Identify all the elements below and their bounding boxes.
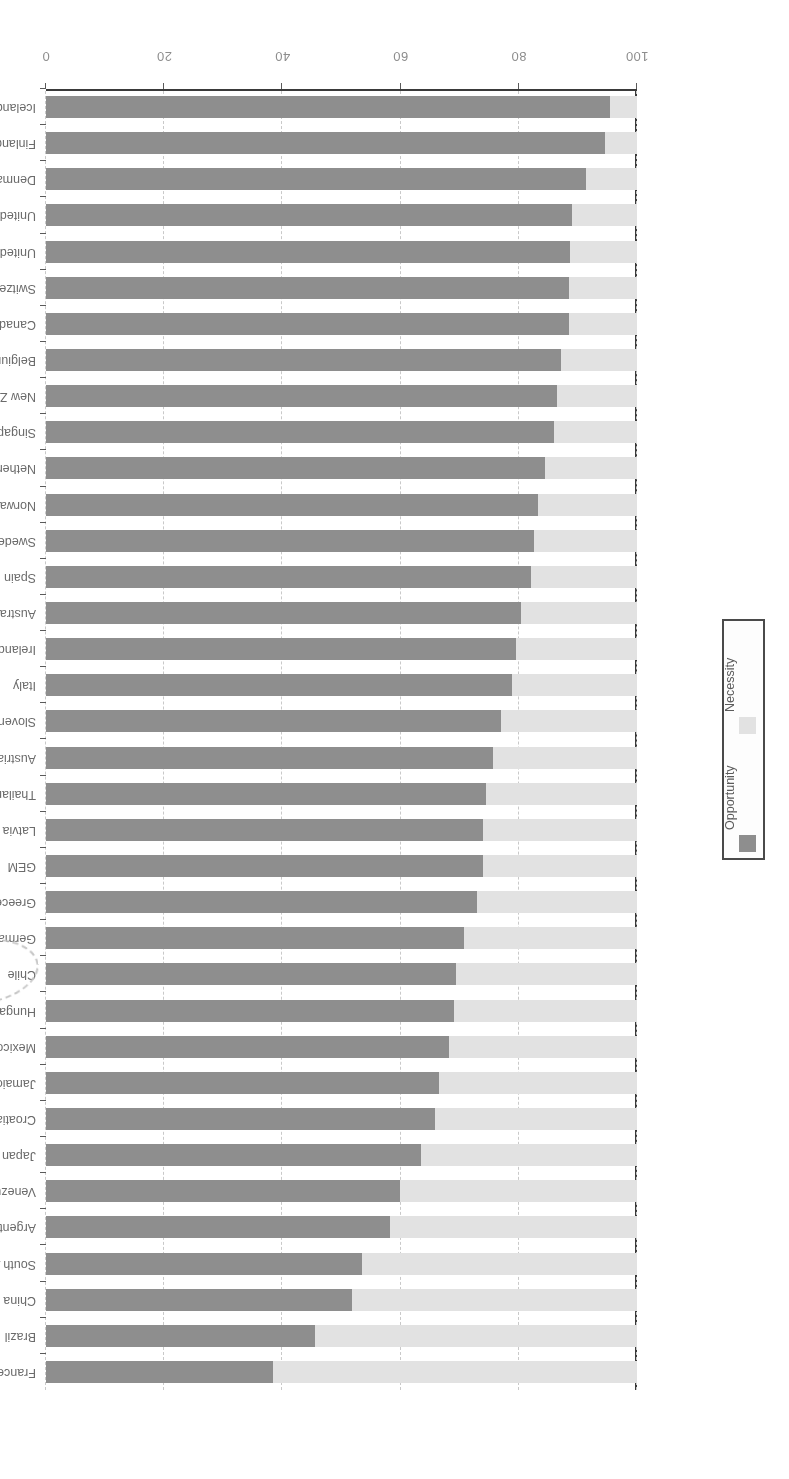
bar-segment-opportunity	[46, 205, 572, 227]
bar-segment-necessity	[605, 132, 637, 154]
bar-segment-necessity	[454, 1000, 637, 1022]
bar-row	[46, 349, 637, 371]
x-axis-line	[46, 89, 637, 91]
bar-row	[46, 1000, 637, 1022]
y-tickmark	[40, 847, 46, 848]
y-tickmark	[40, 702, 46, 703]
bar-segment-necessity	[352, 1289, 637, 1311]
category-label: Finland	[0, 138, 36, 151]
bar-row	[46, 457, 637, 479]
y-tickmark	[40, 1172, 46, 1173]
bar-segment-necessity	[586, 168, 637, 190]
category-label: Switzerland	[0, 282, 36, 295]
category-label: Brazil	[5, 1330, 36, 1343]
bar-segment-opportunity	[46, 349, 561, 371]
y-tickmark	[40, 1353, 46, 1354]
bar-segment-opportunity	[46, 674, 512, 696]
bar-segment-necessity	[486, 783, 637, 805]
bar-segment-necessity	[362, 1253, 637, 1275]
bar-segment-necessity	[435, 1108, 637, 1130]
x-tickmark-80	[518, 83, 519, 89]
y-tickmark	[40, 991, 46, 992]
bar-row	[46, 674, 637, 696]
y-tickmark	[40, 1100, 46, 1101]
y-tickmark	[40, 305, 46, 306]
category-label: Greece	[0, 897, 36, 910]
category-label: United Kingdom	[0, 210, 36, 223]
bar-segment-opportunity	[46, 96, 610, 118]
bar-row	[46, 638, 637, 660]
bar-segment-necessity	[439, 1072, 637, 1094]
y-tickmark	[40, 269, 46, 270]
bar-segment-opportunity	[46, 566, 531, 588]
category-label: Iceland	[0, 102, 36, 115]
bar-segment-opportunity	[46, 457, 545, 479]
category-label: Thailand	[0, 788, 36, 801]
bar-row	[46, 168, 637, 190]
bar-segment-opportunity	[46, 1180, 400, 1202]
bar-segment-necessity	[572, 205, 637, 227]
category-label: Mexico	[0, 1041, 36, 1054]
bar-segment-opportunity	[46, 1216, 390, 1238]
x-tick-label: 100	[625, 49, 648, 64]
category-label: GEM	[8, 861, 36, 874]
bar-segment-opportunity	[46, 1361, 273, 1383]
bar-segment-necessity	[493, 747, 637, 769]
bar-row	[46, 530, 637, 552]
bar-segment-necessity	[400, 1180, 637, 1202]
bar-segment-necessity	[610, 96, 637, 118]
y-tickmark	[40, 1244, 46, 1245]
bar-segment-opportunity	[46, 241, 570, 263]
bar-segment-necessity	[483, 855, 637, 877]
bar-row	[46, 1325, 637, 1347]
y-tickmark	[40, 919, 46, 920]
bar-segment-opportunity	[46, 1253, 362, 1275]
y-tickmark	[40, 413, 46, 414]
bar-segment-necessity	[512, 674, 637, 696]
bar-segment-necessity	[421, 1144, 637, 1166]
bar-row	[46, 385, 637, 407]
bar-segment-necessity	[477, 891, 637, 913]
category-label: Argentina	[0, 1222, 36, 1235]
bar-segment-opportunity	[46, 421, 554, 443]
bar-segment-necessity	[569, 277, 637, 299]
bar-row	[46, 1216, 637, 1238]
x-tick-label: 80	[511, 49, 526, 64]
bar-row	[46, 710, 637, 732]
bar-row	[46, 1253, 637, 1275]
bar-segment-necessity	[449, 1036, 637, 1058]
bar-segment-necessity	[390, 1216, 637, 1238]
bar-segment-opportunity	[46, 385, 557, 407]
y-tickmark	[40, 630, 46, 631]
bar-segment-necessity	[501, 710, 637, 732]
category-label: Germany	[0, 933, 36, 946]
x-tick-label: 0	[42, 49, 50, 64]
bar-segment-opportunity	[46, 494, 538, 516]
bar-segment-necessity	[570, 241, 637, 263]
bar-row	[46, 963, 637, 985]
y-tickmark	[40, 883, 46, 884]
y-tickmark	[40, 811, 46, 812]
category-label: Slovenia	[0, 716, 36, 729]
bar-row	[46, 1108, 637, 1130]
bar-segment-opportunity	[46, 1108, 435, 1130]
x-tick-label: 20	[156, 49, 171, 64]
bar-row	[46, 313, 637, 335]
category-label: Chile	[8, 969, 37, 982]
x-tickmark-40	[281, 83, 282, 89]
bar-segment-opportunity	[46, 168, 586, 190]
bar-segment-opportunity	[46, 710, 501, 732]
category-label: Denmark	[0, 174, 36, 187]
bar-segment-necessity	[561, 349, 637, 371]
bar-row	[46, 1180, 637, 1202]
bar-row	[46, 241, 637, 263]
y-tickmark	[40, 775, 46, 776]
y-tickmark	[40, 955, 46, 956]
bar-segment-opportunity	[46, 1036, 449, 1058]
plot-area: 100806040200 IcelandFinlandDenmarkUnited…	[46, 89, 637, 1390]
bar-segment-necessity	[456, 963, 637, 985]
bar-segment-necessity	[521, 602, 637, 624]
legend-item-opportunity: Opportunity	[720, 740, 763, 858]
bar-row	[46, 494, 637, 516]
bar-row	[46, 132, 637, 154]
